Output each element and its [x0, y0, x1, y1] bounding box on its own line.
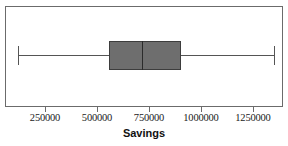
boxplot-figure: 25000050000075000010000001250000 Savings: [0, 0, 288, 146]
x-tick-label: 750000: [134, 112, 164, 123]
interquartile-box: [109, 41, 181, 70]
x-tick-label: 1250000: [235, 112, 270, 123]
x-tick-label: 250000: [30, 112, 60, 123]
plot-frame: [5, 6, 283, 107]
right-whisker-line: [181, 55, 274, 56]
left-whisker-line: [18, 55, 109, 56]
x-axis-title: Savings: [0, 127, 288, 139]
left-whisker-cap: [18, 46, 19, 65]
x-tick-label: 1000000: [183, 112, 218, 123]
median-line: [142, 41, 143, 70]
x-tick-label: 500000: [82, 112, 112, 123]
right-whisker-cap: [274, 46, 275, 65]
